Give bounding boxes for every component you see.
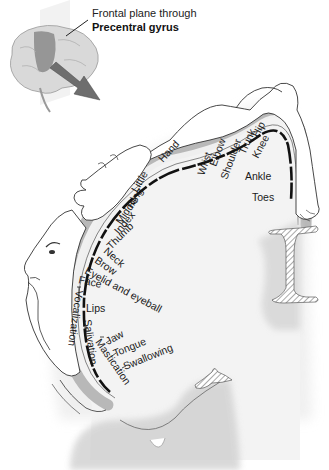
brain-inset: Frontal plane through Precentral gyrus xyxy=(10,0,196,112)
caption-line2: Precentral gyrus xyxy=(92,21,179,33)
label-lips: Lips xyxy=(86,302,105,314)
motor-homunculus-diagram: Frontal plane through Precentral gyrus T… xyxy=(0,0,329,470)
label-toes: Toes xyxy=(252,191,274,203)
caption-line1: Frontal plane through xyxy=(92,7,197,19)
label-ankle: Ankle xyxy=(245,170,271,182)
